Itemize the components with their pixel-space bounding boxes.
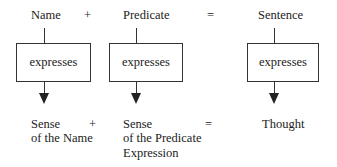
connector-line (44, 28, 45, 43)
plus-sign-top: + (84, 8, 91, 22)
equals-sign-top: = (207, 8, 214, 22)
label-sense-of-name-line2: of the Name (31, 131, 93, 145)
arrow-down-icon (131, 93, 141, 104)
expresses-box-predicate: expresses (109, 43, 183, 82)
label-sense-of-predicate-line2: of the Predicate (123, 131, 201, 145)
box-label: expresses (122, 55, 170, 70)
arrow-down-icon (39, 93, 49, 104)
plus-sign-bottom: + (89, 117, 96, 131)
label-sense-of-name-line1: Sense (31, 117, 60, 131)
equals-sign-bottom: = (205, 117, 212, 131)
expresses-box-sentence: expresses (247, 43, 319, 82)
label-sense-of-predicate-line3: Expression (123, 146, 179, 160)
box-label: expresses (259, 55, 307, 70)
label-name: Name (31, 8, 61, 22)
arrow-down-icon (269, 93, 279, 104)
label-sentence: Sentence (258, 8, 303, 22)
box-label: expresses (30, 55, 78, 70)
label-predicate: Predicate (123, 8, 170, 22)
label-sense-of-predicate-line1: Sense (123, 117, 152, 131)
connector-line (274, 28, 275, 43)
label-thought: Thought (262, 117, 304, 131)
connector-line (136, 28, 137, 43)
expresses-box-name: expresses (16, 43, 91, 82)
